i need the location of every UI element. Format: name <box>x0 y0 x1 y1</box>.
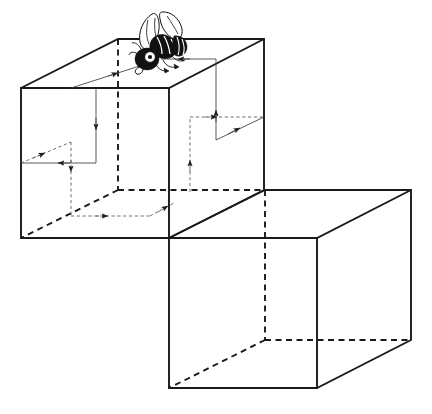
upper-box-hidden-bottom-left <box>21 190 118 238</box>
bee-leg-tips <box>164 64 179 73</box>
bee-legs <box>155 56 185 71</box>
bee-mouth <box>135 67 143 74</box>
bee-path-arrows <box>21 59 264 216</box>
lower-box-right-face <box>317 190 411 388</box>
lower-box-top-face <box>169 190 411 238</box>
path-bee-approach-arrowhead <box>108 73 118 76</box>
path-bottom-diagonal-dashed <box>150 203 174 216</box>
figure-canvas: Bee walking on two adjacent boxes bee-il… <box>0 0 432 414</box>
lower-box-hidden-bottom-left <box>169 340 265 388</box>
bee-illustration <box>129 12 187 74</box>
upper-box-right-face <box>169 39 264 238</box>
path-left-diagonal-dashed <box>21 142 71 163</box>
lower-box-front-left-face <box>169 238 317 388</box>
path-right-diagonal <box>216 117 264 140</box>
path-right-diagonal-arrowhead <box>228 128 240 134</box>
geometry-diagram <box>0 0 432 414</box>
bee-pupil <box>148 55 152 59</box>
